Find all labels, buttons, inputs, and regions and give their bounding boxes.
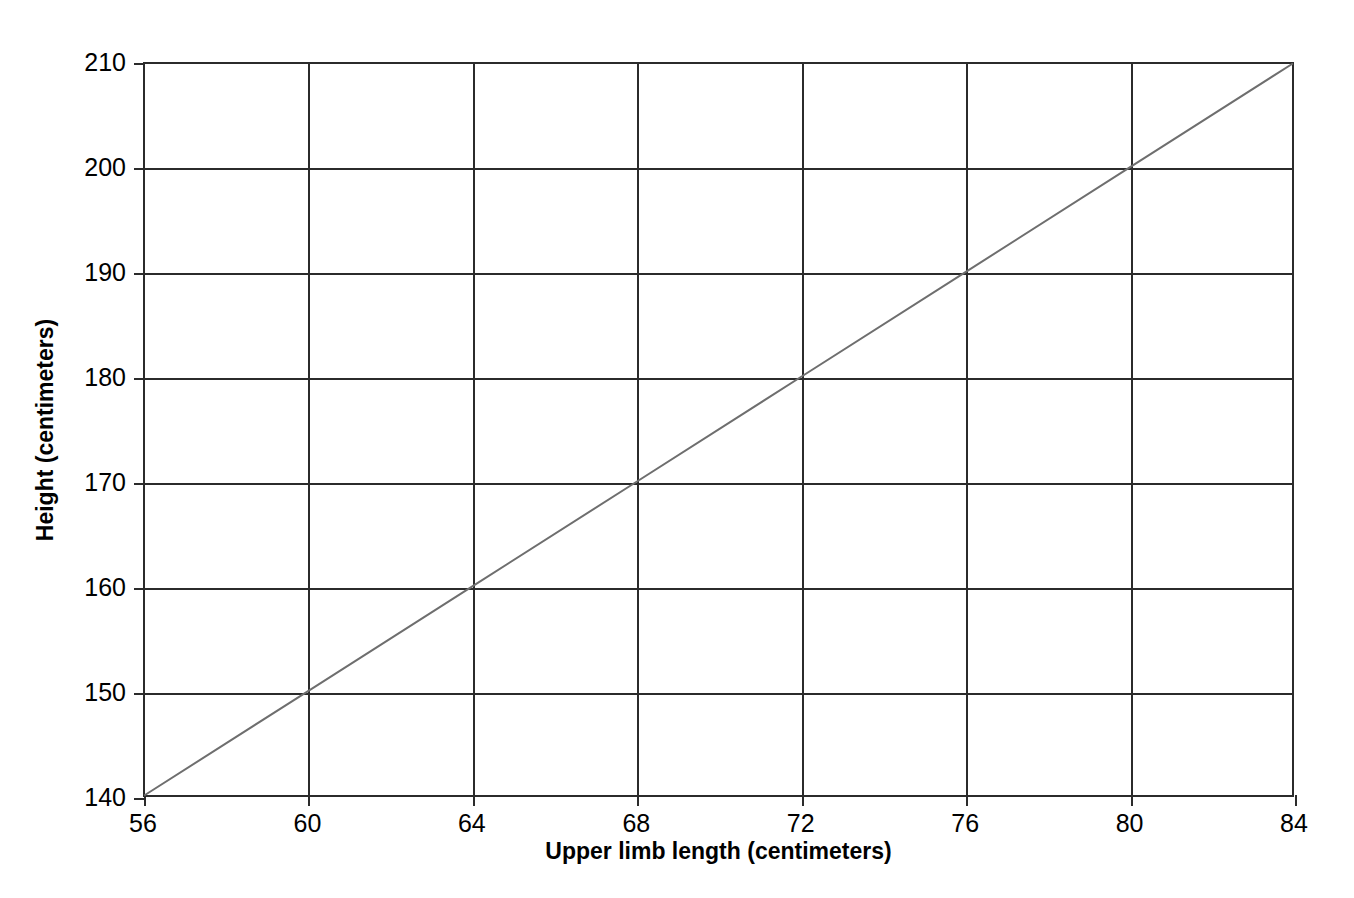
data-line-layer (145, 64, 1292, 795)
y-axis-tick (134, 588, 145, 590)
y-axis-tick (134, 378, 145, 380)
y-tick-label: 140 (84, 783, 126, 812)
y-axis-tick (134, 63, 145, 65)
chart-figure: Height (centimeters) Upper limb length (… (0, 0, 1354, 898)
y-tick-label: 190 (84, 258, 126, 287)
x-tick-label: 84 (1280, 809, 1308, 838)
x-axis-tick (308, 795, 310, 806)
x-axis-tick (473, 795, 475, 806)
y-axis-tick (134, 693, 145, 695)
y-axis-tick (134, 168, 145, 170)
x-tick-label: 64 (458, 809, 486, 838)
x-tick-label: 76 (951, 809, 979, 838)
y-tick-label: 180 (84, 363, 126, 392)
x-axis-tick (1131, 795, 1133, 806)
x-tick-label: 72 (787, 809, 815, 838)
x-tick-label: 80 (1116, 809, 1144, 838)
y-axis-tick (134, 273, 145, 275)
y-tick-label: 170 (84, 468, 126, 497)
y-tick-label: 150 (84, 678, 126, 707)
x-axis-tick (637, 795, 639, 806)
y-axis-title: Height (centimeters) (32, 319, 59, 541)
x-axis-tick (144, 795, 146, 806)
x-tick-label: 60 (294, 809, 322, 838)
y-axis-tick (134, 798, 145, 800)
data-line (145, 64, 1292, 795)
x-tick-label: 68 (622, 809, 650, 838)
y-tick-label: 200 (84, 153, 126, 182)
y-tick-label: 160 (84, 573, 126, 602)
y-axis-tick (134, 483, 145, 485)
y-tick-label: 210 (84, 48, 126, 77)
x-tick-label: 56 (129, 809, 157, 838)
plot-area (143, 62, 1294, 797)
x-axis-tick (802, 795, 804, 806)
x-axis-tick (1295, 795, 1297, 806)
x-axis-title: Upper limb length (centimeters) (143, 838, 1294, 865)
x-axis-tick (966, 795, 968, 806)
